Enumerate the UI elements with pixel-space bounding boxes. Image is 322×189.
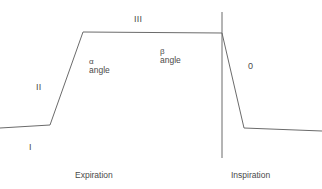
phase-three-label: III — [134, 14, 142, 24]
beta-angle-label: β angle — [160, 47, 181, 66]
inspiration-label: Inspiration — [231, 171, 270, 181]
phase-zero-label: 0 — [248, 61, 253, 71]
waveform-svg — [0, 0, 322, 189]
expiration-label: Expiration — [75, 171, 113, 181]
phase-one-label: I — [29, 142, 32, 152]
alpha-angle-label: α angle — [89, 57, 110, 76]
beta-angle-word: angle — [160, 56, 181, 66]
phase-two-label: II — [36, 82, 42, 92]
capnogram-diagram: I II III 0 α angle β angle Expiration In… — [0, 0, 322, 189]
alpha-angle-word: angle — [89, 66, 110, 76]
